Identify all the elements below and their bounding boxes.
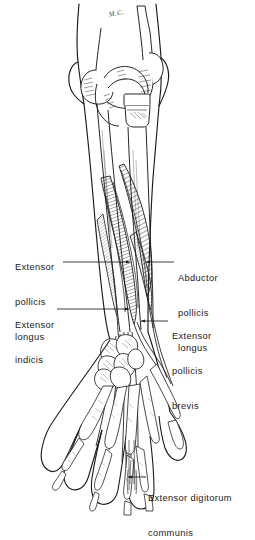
label-ei-line2: indicis (15, 355, 55, 367)
label-epb-line2: pollicis (172, 366, 212, 378)
label-edc-line1: Extensor digitorum (148, 493, 232, 505)
label-edc-line2: communis (148, 528, 232, 540)
label-extensor-indicis: Extensor indicis (15, 297, 55, 390)
label-apl-line1: Abductor (178, 273, 218, 285)
radial-head (124, 94, 150, 127)
label-epl-line1: Extensor (15, 262, 55, 274)
label-extensor-digitorum-communis: Extensor digitorum communis (148, 470, 232, 540)
label-epb-line3: brevis (172, 401, 212, 413)
label-epb-line1: Extensor (172, 331, 212, 343)
label-extensor-pollicis-brevis: Extensor pollicis brevis (172, 308, 212, 436)
label-ei-line1: Extensor (15, 320, 55, 332)
